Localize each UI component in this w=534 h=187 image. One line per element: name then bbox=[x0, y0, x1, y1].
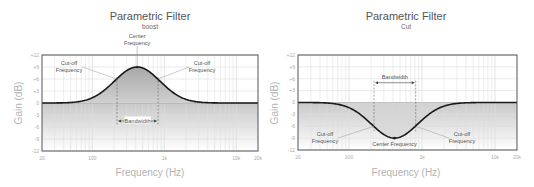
cutoff-frequency-label: Cut-off bbox=[194, 60, 211, 66]
center-frequency-label: Center bbox=[129, 33, 146, 39]
chart-subtitle: boost bbox=[142, 23, 158, 30]
x-tick-label: 20k bbox=[254, 155, 263, 161]
cutoff-frequency-label: Cut-off bbox=[317, 131, 334, 137]
cutoff-leader bbox=[158, 67, 189, 79]
y-tick-label: 0 bbox=[292, 99, 295, 105]
cutoff-frequency-label: Cut-off bbox=[454, 131, 471, 137]
x-tick-label: 10k bbox=[491, 154, 500, 160]
chart-title: Parametric Filter bbox=[366, 10, 447, 22]
cutoff-frequency-label: Frequency bbox=[56, 67, 83, 73]
x-tick-label: 20 bbox=[39, 155, 45, 161]
x-tick-label: 1k bbox=[162, 155, 168, 161]
cutoff-leader bbox=[82, 67, 117, 79]
cutoff-frequency-label: Cut-off bbox=[61, 60, 78, 66]
y-tick-label: -12 bbox=[288, 147, 295, 153]
plot-area: +12+9+6+30-3-6-9-12201001k10k20kBandwidt… bbox=[287, 52, 522, 160]
center-frequency-label: Center Frequency bbox=[372, 141, 417, 147]
y-tick-label: +9 bbox=[289, 64, 295, 70]
x-axis-title: Frequency (Hz) bbox=[372, 167, 441, 178]
y-tick-label: +12 bbox=[31, 52, 40, 58]
y-tick-label: -3 bbox=[35, 112, 40, 118]
y-tick-label: +3 bbox=[289, 87, 295, 93]
x-tick-label: 20 bbox=[295, 154, 301, 160]
bandwidth-label: Bandwidth bbox=[382, 74, 408, 80]
parametric-filter-figure: Parametric Filter boost +12+9+6+30-3-6-9… bbox=[0, 0, 534, 187]
cutoff-frequency-label: Frequency bbox=[449, 138, 476, 144]
x-tick-label: 10k bbox=[232, 155, 241, 161]
y-tick-label: +12 bbox=[287, 52, 296, 58]
center-frequency-marker bbox=[393, 137, 396, 140]
cutoff-frequency-label: Frequency bbox=[312, 138, 339, 144]
y-tick-label: +6 bbox=[289, 76, 295, 82]
y-tick-label: -3 bbox=[291, 111, 296, 117]
chart-cut: Parametric Filter Cut +12+9+6+30-3-6-9-1… bbox=[269, 10, 522, 178]
y-axis-title: Gain (dB) bbox=[13, 82, 24, 125]
y-tick-label: -6 bbox=[35, 124, 40, 130]
cutoff-frequency-label: Frequency bbox=[189, 67, 216, 73]
x-tick-label: 100 bbox=[345, 154, 354, 160]
y-tick-label: +6 bbox=[33, 76, 39, 82]
chart-title: Parametric Filter bbox=[110, 10, 191, 22]
y-tick-label: +9 bbox=[33, 64, 39, 70]
plot-area: +12+9+6+30-3-6-9-12201001k10k20kBandwidt… bbox=[31, 33, 263, 161]
chart-subtitle: Cut bbox=[401, 23, 411, 30]
y-tick-label: +3 bbox=[33, 88, 39, 94]
y-tick-label: 0 bbox=[36, 100, 39, 106]
y-tick-label: -9 bbox=[35, 136, 40, 142]
y-tick-label: -12 bbox=[32, 148, 39, 154]
y-tick-label: -6 bbox=[291, 123, 296, 129]
x-axis-title: Frequency (Hz) bbox=[116, 167, 185, 178]
x-tick-label: 1k bbox=[419, 154, 425, 160]
x-tick-label: 100 bbox=[88, 155, 97, 161]
y-axis-title: Gain (dB) bbox=[269, 82, 280, 125]
y-tick-label: -9 bbox=[291, 135, 296, 141]
x-tick-label: 20k bbox=[513, 154, 522, 160]
bandwidth-label: Bandwidth bbox=[124, 118, 150, 124]
chart-boost: Parametric Filter boost +12+9+6+30-3-6-9… bbox=[13, 10, 263, 178]
center-frequency-label: Frequency bbox=[124, 40, 151, 46]
